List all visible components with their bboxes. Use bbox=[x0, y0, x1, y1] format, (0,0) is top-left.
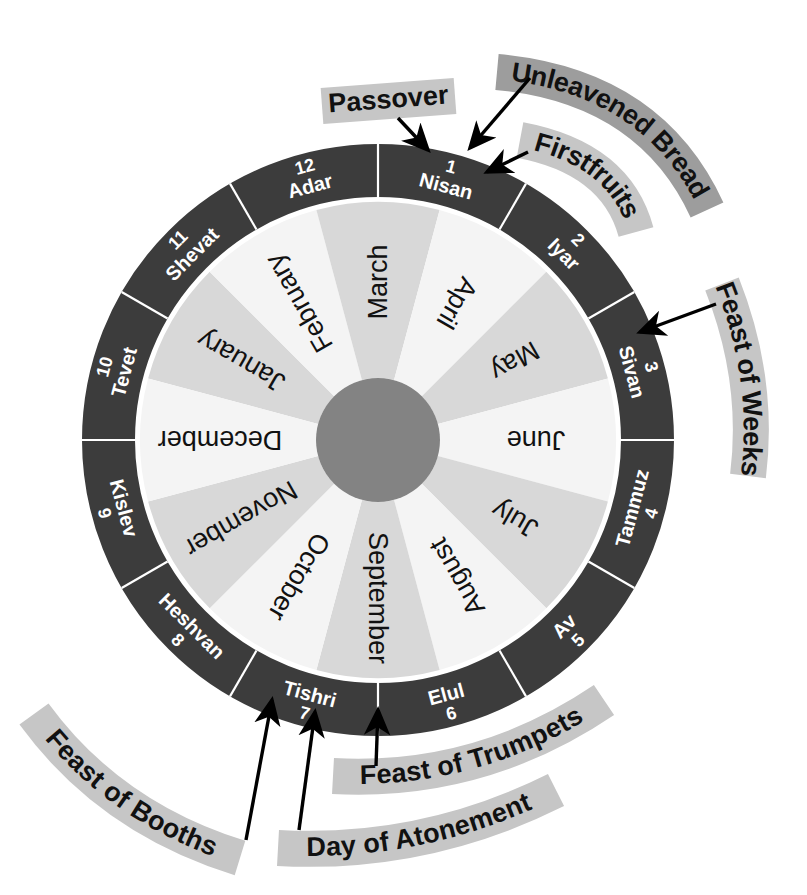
annotation-arrow-feast-of-trumpets bbox=[376, 710, 378, 766]
calendar-wheel-diagram: JanuaryFebruaryMarchAprilMayJuneJulyAugu… bbox=[0, 0, 807, 895]
annotation-passover: Passover bbox=[322, 80, 455, 119]
annotation-day-of-atonement: Day of Atonement bbox=[278, 787, 556, 862]
annotation-arrow-feast-of-weeks bbox=[640, 304, 716, 332]
annotation-feast-of-weeks: Feast of Weeks bbox=[710, 278, 768, 478]
annotation-arrow-firstfruits bbox=[487, 152, 528, 172]
annotation-label-feast-of-weeks: Feast of Weeks bbox=[710, 278, 768, 478]
gregorian-month-label-september: September bbox=[363, 532, 393, 664]
gregorian-month-label-march: March bbox=[363, 244, 393, 319]
annotation-feast-of-booths: Feast of Booths bbox=[34, 714, 240, 862]
wheel-hub bbox=[316, 378, 440, 502]
gregorian-month-label-december: December bbox=[158, 425, 283, 455]
annotation-arrow-feast-of-booths bbox=[246, 700, 272, 840]
annotation-arrow-day-of-atonement bbox=[299, 712, 315, 830]
annotation-label-day-of-atonement: Day of Atonement bbox=[306, 787, 535, 862]
annotation-label-feast-of-booths: Feast of Booths bbox=[40, 723, 222, 862]
gregorian-month-label-june: June bbox=[507, 425, 566, 455]
